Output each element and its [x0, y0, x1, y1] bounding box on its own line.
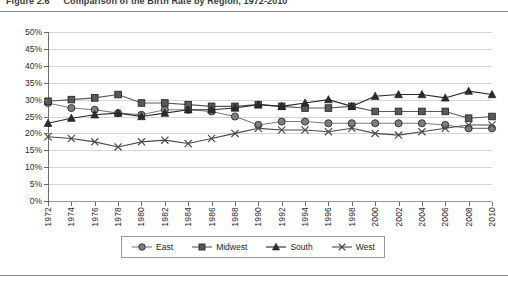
x-axis-tick	[141, 202, 142, 206]
data-point-square	[489, 113, 496, 120]
series-west	[44, 121, 495, 150]
y-axis-tick	[44, 184, 48, 185]
data-point-square	[419, 108, 426, 115]
x-axis-tick-label: 1990	[253, 207, 263, 227]
x-axis-tick	[188, 202, 189, 206]
data-point-circle	[68, 104, 75, 111]
x-axis-tick	[422, 202, 423, 206]
y-axis-tick	[44, 167, 48, 168]
legend-item-south[interactable]: South	[265, 241, 312, 253]
x-axis-tick-label: 1972	[43, 207, 53, 227]
legend-label: South	[290, 242, 312, 252]
y-axis-tick-label: 45%	[2, 44, 42, 54]
data-point-circle	[488, 125, 495, 132]
data-point-circle	[278, 118, 285, 125]
x-axis-tick	[212, 202, 213, 206]
legend-item-midwest[interactable]: Midwest	[191, 241, 247, 253]
legend-label: East	[156, 242, 173, 252]
legend-label: West	[356, 242, 375, 252]
y-axis-tick-label: 5%	[2, 179, 42, 189]
y-axis-tick	[44, 49, 48, 50]
x-axis-tick-label: 2006	[440, 207, 450, 227]
data-point-square	[115, 91, 122, 98]
legend-marker-circle-icon	[131, 241, 153, 253]
x-axis-tick-label: 1988	[230, 207, 240, 227]
data-point-square	[138, 100, 145, 107]
data-point-square	[68, 96, 75, 103]
x-axis-tick	[375, 202, 376, 206]
data-point-circle	[418, 120, 425, 127]
x-axis-tick	[235, 202, 236, 206]
data-point-triangle	[325, 96, 333, 103]
title-divider	[0, 11, 508, 12]
x-axis-tick-label: 1980	[136, 207, 146, 227]
x-axis-tick-label: 1998	[347, 207, 357, 227]
data-point-square	[465, 115, 472, 122]
figure-title-text: Comparison of the Birth Rate by Region, …	[64, 0, 288, 6]
x-axis-tick	[71, 202, 72, 206]
figure-caption: Figure 2.6Comparison of the Birth Rate b…	[6, 0, 287, 6]
data-point-square	[162, 100, 169, 107]
x-axis-tick-label: 1996	[323, 207, 333, 227]
x-axis-tick-label: 2010	[487, 207, 497, 227]
x-axis-tick-label: 1978	[113, 207, 123, 227]
y-axis-tick-label: 30%	[2, 95, 42, 105]
x-axis-tick	[352, 202, 353, 206]
x-axis-tick-label: 2002	[394, 207, 404, 227]
x-axis-tick	[165, 202, 166, 206]
y-axis-tick-label: 15%	[2, 145, 42, 155]
legend-item-west[interactable]: West	[331, 241, 375, 253]
x-axis-tick-label: 1974	[66, 207, 76, 227]
x-axis-tick	[445, 202, 446, 206]
x-axis-tick	[469, 202, 470, 206]
y-axis-tick-label: 40%	[2, 61, 42, 71]
x-axis-tick	[328, 202, 329, 206]
data-point-circle	[231, 113, 238, 120]
data-point-square	[442, 108, 449, 115]
data-point-circle	[139, 244, 146, 251]
y-axis-tick-label: 35%	[2, 78, 42, 88]
y-axis-tick	[44, 117, 48, 118]
y-axis-tick-label: 20%	[2, 128, 42, 138]
data-point-triangle	[465, 87, 473, 94]
x-axis-tick-label: 1986	[207, 207, 217, 227]
y-axis-tick-label: 50%	[2, 27, 42, 37]
x-axis-tick-label: 2000	[370, 207, 380, 227]
x-axis-tick-label: 1992	[277, 207, 287, 227]
series-east	[44, 99, 495, 132]
x-axis-tick	[48, 202, 49, 206]
x-axis-tick	[95, 202, 96, 206]
legend-marker-square-icon	[191, 241, 213, 253]
legend-item-east[interactable]: East	[131, 241, 173, 253]
x-axis-tick-label: 1984	[183, 207, 193, 227]
x-axis-tick-label: 1982	[160, 207, 170, 227]
data-point-square	[325, 105, 332, 112]
legend-label: Midwest	[216, 242, 247, 252]
x-axis-tick-label: 2008	[464, 207, 474, 227]
x-axis-tick	[118, 202, 119, 206]
y-axis-labels: 50%45%40%35%30%25%20%15%10%5%0%	[0, 32, 42, 202]
data-point-circle	[301, 118, 308, 125]
y-axis-tick-label: 10%	[2, 162, 42, 172]
chart-legend: EastMidwestSouthWest	[121, 236, 385, 258]
x-axis-tick-label: 1976	[90, 207, 100, 227]
x-axis-tick	[282, 202, 283, 206]
data-point-square	[372, 108, 379, 115]
data-point-square	[199, 244, 205, 250]
x-axis-tick	[305, 202, 306, 206]
line-chart: 50%45%40%35%30%25%20%15%10%5%0% 19721974…	[0, 14, 508, 272]
x-axis-tick	[492, 202, 493, 206]
data-point-circle	[372, 120, 379, 127]
data-point-circle	[395, 120, 402, 127]
data-point-square	[395, 108, 402, 115]
series-container	[48, 32, 492, 202]
y-axis-tick-label: 25%	[2, 112, 42, 122]
y-axis-tick	[44, 150, 48, 151]
data-point-circle	[325, 120, 332, 127]
y-axis-tick	[44, 100, 48, 101]
x-axis-tick	[399, 202, 400, 206]
y-axis-tick	[44, 133, 48, 134]
figure-number: Figure 2.6	[6, 0, 50, 6]
series-south	[44, 87, 496, 126]
x-axis-tick-label: 2004	[417, 207, 427, 227]
